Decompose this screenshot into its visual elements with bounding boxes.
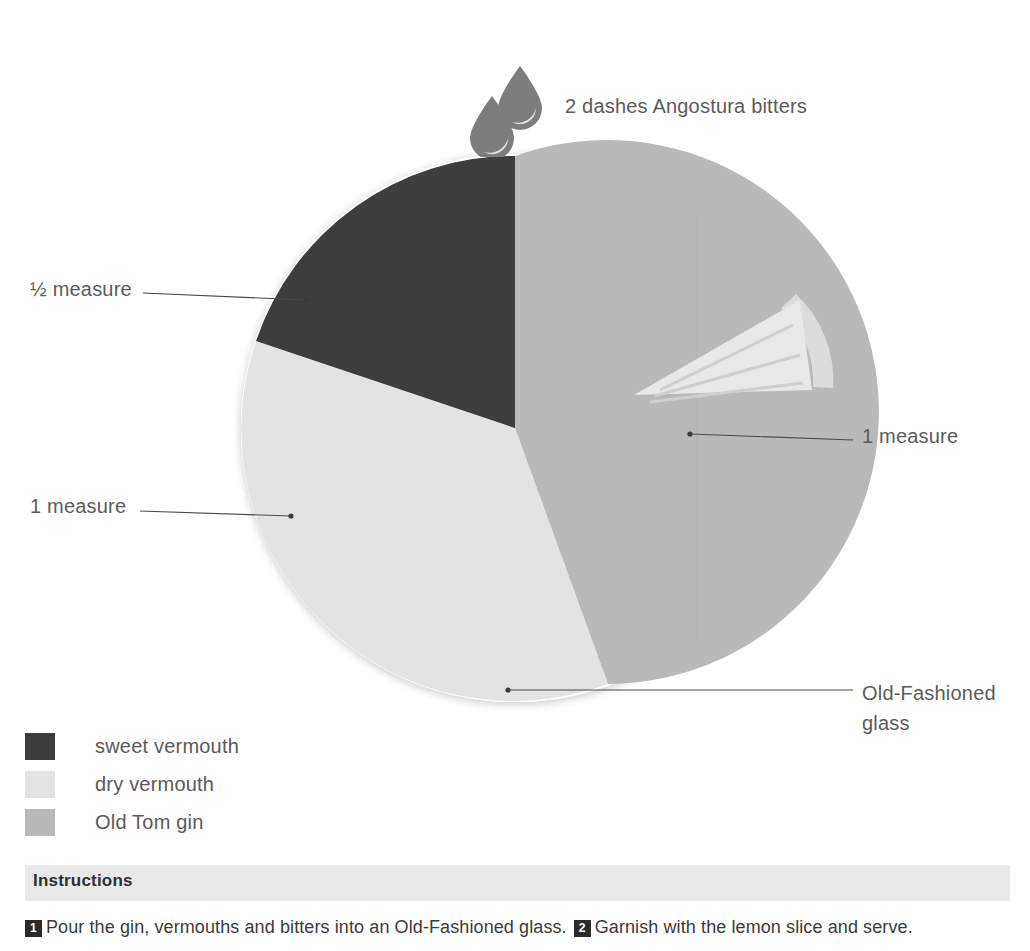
step-number-2: 2	[574, 920, 591, 937]
step-text-1: Pour the gin, vermouths and bitters into…	[46, 917, 567, 937]
callout-half-measure: ½ measure	[30, 278, 132, 301]
legend-label-dry-vermouth: dry vermouth	[95, 773, 214, 796]
legend-item-sweet-vermouth: sweet vermouth	[25, 727, 345, 765]
callout-glass: Old-Fashioned glass	[862, 678, 996, 738]
legend-swatch-dry-vermouth	[25, 771, 55, 798]
step-number-1: 1	[25, 920, 42, 937]
callout-glass-line2: glass	[862, 708, 996, 738]
pie-slices	[241, 140, 879, 701]
legend-item-old-tom-gin: Old Tom gin	[25, 803, 345, 841]
legend-swatch-sweet-vermouth	[25, 733, 55, 760]
instructions-band	[25, 865, 1010, 901]
legend-label-old-tom-gin: Old Tom gin	[95, 811, 204, 834]
legend: sweet vermouth dry vermouth Old Tom gin	[25, 727, 345, 841]
callout-glass-line1: Old-Fashioned	[862, 678, 996, 708]
droplet-icon	[470, 62, 560, 157]
instructions-body: 1Pour the gin, vermouths and bitters int…	[25, 912, 1010, 942]
instructions-heading: Instructions	[33, 871, 133, 891]
step-text-2: Garnish with the lemon slice and serve.	[595, 917, 913, 937]
bitters-callout: 2 dashes Angostura bitters	[470, 62, 890, 157]
legend-label-sweet-vermouth: sweet vermouth	[95, 735, 239, 758]
bitters-label: 2 dashes Angostura bitters	[565, 95, 807, 118]
legend-item-dry-vermouth: dry vermouth	[25, 765, 345, 803]
callout-one-measure-gin: 1 measure	[862, 425, 958, 448]
legend-swatch-old-tom-gin	[25, 809, 55, 836]
callout-one-measure-dry-vermouth: 1 measure	[30, 495, 126, 518]
